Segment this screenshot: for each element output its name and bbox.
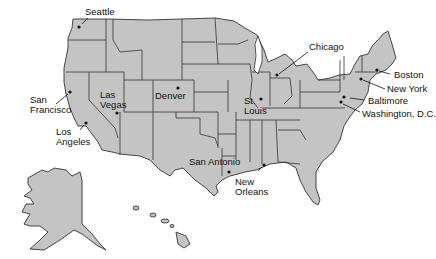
city-label-san-antonio: San Antonio bbox=[189, 157, 240, 167]
city-label-boston: Boston bbox=[394, 70, 424, 80]
city-label-baltimore: Baltimore bbox=[368, 96, 408, 106]
city-label-seattle: Seattle bbox=[85, 7, 115, 17]
alaska-inset bbox=[22, 168, 106, 250]
city-label-las-vegas: Las Vegas bbox=[100, 90, 126, 110]
city-label-new-orleans: New Orleans bbox=[235, 177, 268, 197]
city-label-san-francisco: San Francisco bbox=[30, 95, 71, 115]
contiguous-us bbox=[64, 18, 396, 205]
city-label-los-angeles: Los Angeles bbox=[56, 127, 90, 147]
city-label-chicago: Chicago bbox=[309, 42, 344, 52]
city-label-denver: Denver bbox=[155, 91, 186, 101]
city-label-washington-dc: Washington, D.C. bbox=[362, 109, 436, 119]
hawaii-inset bbox=[133, 206, 190, 248]
city-label-new-york: New York bbox=[387, 84, 427, 94]
city-label-st-louis: St. Louis bbox=[244, 96, 267, 116]
